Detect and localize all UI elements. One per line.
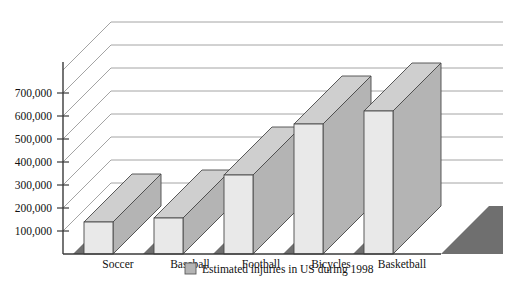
bar-front-baseball	[154, 218, 183, 254]
x-label-basketball: Basketball	[378, 258, 427, 270]
bar-front-soccer	[84, 222, 113, 254]
bar-group-bicycles[interactable]	[283, 76, 371, 254]
bar-front-football	[224, 175, 253, 254]
chart-page: 700,000 600,000 500,000 400,000 300,000 …	[0, 0, 516, 285]
legend-swatch-injuries	[185, 263, 196, 274]
bar-chart-3d: 700,000 600,000 500,000 400,000 300,000 …	[0, 0, 516, 285]
y-label-500000: 500,000	[15, 133, 53, 146]
legend-label-injuries: Estimated injuries in US during 1998	[202, 263, 374, 276]
chart-legend: Estimated injuries in US during 1998	[185, 263, 374, 276]
bar-front-bicycles	[294, 124, 323, 254]
bar-group-football[interactable]	[213, 127, 301, 254]
y-label-400000: 400,000	[15, 156, 53, 169]
y-label-200000: 200,000	[15, 202, 53, 215]
bar-front-basketball	[364, 111, 393, 254]
bar-group-soccer[interactable]	[73, 174, 161, 254]
x-label-soccer: Soccer	[102, 258, 133, 270]
y-label-300000: 300,000	[15, 179, 53, 192]
y-label-600000: 600,000	[15, 110, 53, 123]
y-axis-labels: 700,000 600,000 500,000 400,000 300,000 …	[15, 87, 53, 238]
y-label-700000: 700,000	[15, 87, 53, 100]
y-label-100000: 100,000	[15, 225, 53, 238]
